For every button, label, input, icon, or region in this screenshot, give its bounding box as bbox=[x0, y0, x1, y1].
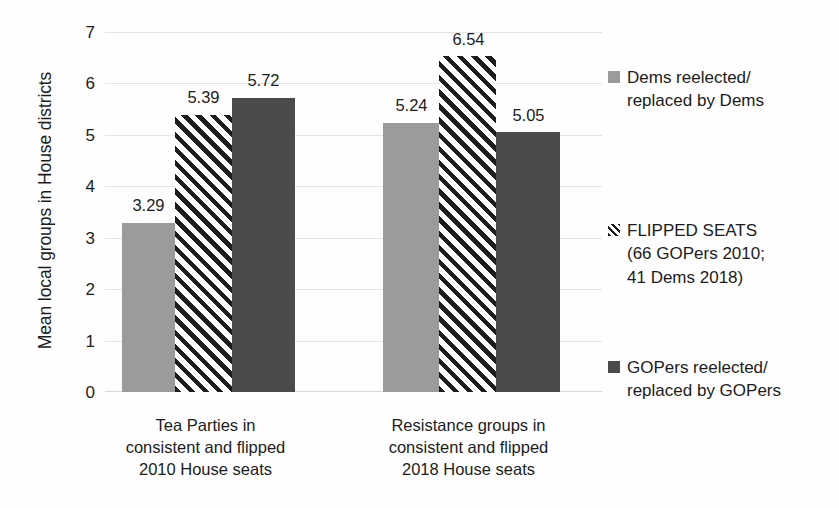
bar-group2-dems[interactable] bbox=[383, 123, 439, 392]
category-label-group1-line3: 2010 House seats bbox=[98, 459, 313, 481]
y-tick-label-7: 7 bbox=[55, 24, 95, 41]
y-tick-label-0: 0 bbox=[55, 384, 95, 401]
y-axis-title: Mean local groups in House districts bbox=[35, 16, 56, 406]
bar-group1-dems[interactable] bbox=[122, 223, 175, 392]
gridline-7 bbox=[105, 32, 602, 33]
category-label-group2: Resistance groups in consistent and flip… bbox=[361, 415, 576, 480]
bar-value-group1-flipped: 5.39 bbox=[167, 89, 240, 106]
legend-entry-flipped[interactable]: FLIPPED SEATS (66 GOPers 2010; 41 Dems 2… bbox=[608, 219, 765, 289]
legend-swatch-dark-gray-icon bbox=[608, 361, 620, 373]
bar-value-group2-dems: 5.24 bbox=[375, 97, 448, 114]
bar-group1-flipped[interactable] bbox=[175, 115, 232, 392]
bar-value-group2-gopers: 5.05 bbox=[492, 107, 565, 124]
y-tick-label-3: 3 bbox=[55, 230, 95, 247]
category-label-group2-line2: consistent and flipped bbox=[361, 437, 576, 459]
category-label-group1-line2: consistent and flipped bbox=[98, 437, 313, 459]
legend-entry-gopers[interactable]: GOPers reelected/ replaced by GOPers bbox=[608, 356, 781, 403]
y-tick-label-5: 5 bbox=[55, 127, 95, 144]
bar-value-group1-gopers: 5.72 bbox=[227, 72, 300, 89]
category-label-group1-line1: Tea Parties in bbox=[98, 415, 313, 437]
y-tick-label-4: 4 bbox=[55, 178, 95, 195]
legend-label-dems: Dems reelected/ replaced by Dems bbox=[627, 66, 764, 113]
plot-area: 3.29 5.39 5.72 5.24 6.54 5.05 bbox=[105, 32, 602, 392]
y-tick-label-2: 2 bbox=[55, 281, 95, 298]
bar-group1-gopers[interactable] bbox=[232, 98, 295, 392]
category-label-group2-line1: Resistance groups in bbox=[361, 415, 576, 437]
gridline-6 bbox=[105, 83, 602, 84]
y-tick-label-1: 1 bbox=[55, 333, 95, 350]
category-label-group1: Tea Parties in consistent and flipped 20… bbox=[98, 415, 313, 480]
legend-swatch-hatch-icon bbox=[608, 224, 620, 236]
bar-group2-gopers[interactable] bbox=[496, 132, 560, 392]
y-tick-label-6: 6 bbox=[55, 75, 95, 92]
bar-group2-flipped[interactable] bbox=[439, 56, 496, 392]
bar-value-group2-flipped: 6.54 bbox=[432, 31, 505, 48]
legend-swatch-light-gray-icon bbox=[608, 71, 620, 83]
bar-chart: Mean local groups in House districts 7 6… bbox=[0, 0, 839, 508]
legend-entry-dems[interactable]: Dems reelected/ replaced by Dems bbox=[608, 66, 764, 113]
category-label-group2-line3: 2018 House seats bbox=[361, 459, 576, 481]
legend-label-flipped: FLIPPED SEATS (66 GOPers 2010; 41 Dems 2… bbox=[627, 219, 765, 289]
legend-label-gopers: GOPers reelected/ replaced by GOPers bbox=[627, 356, 781, 403]
